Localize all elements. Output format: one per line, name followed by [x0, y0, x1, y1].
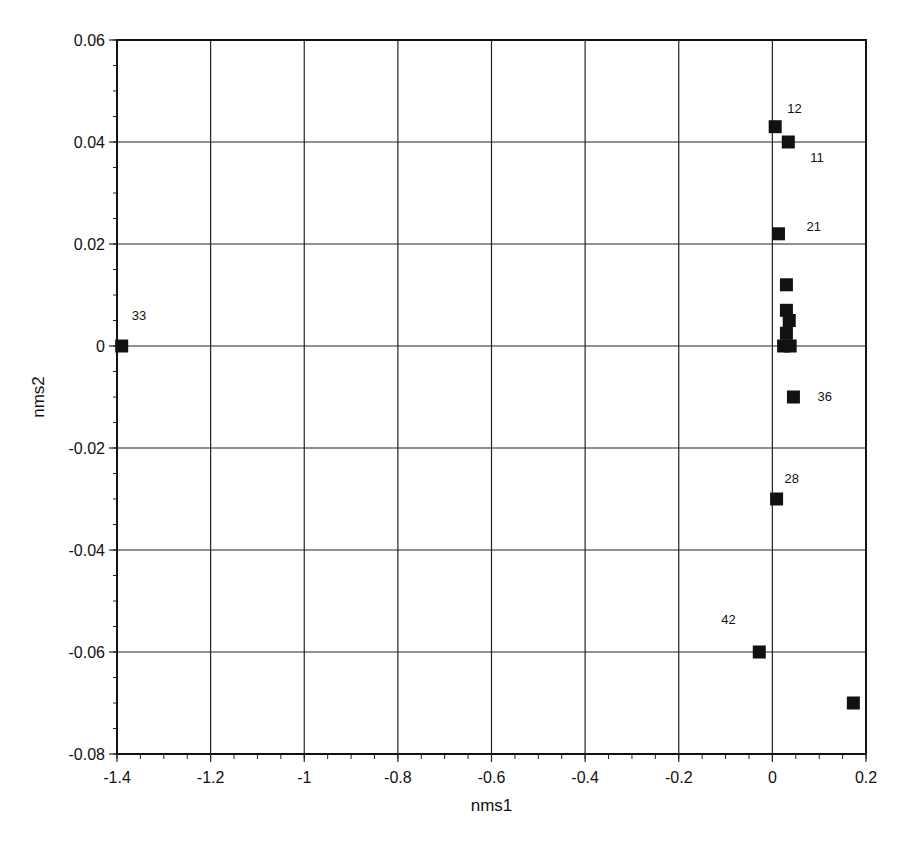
data-point-label: 28: [785, 471, 799, 486]
data-point-marker: [770, 493, 783, 506]
x-tick-label: 0.2: [855, 769, 877, 786]
x-tick-label: -0.2: [665, 769, 693, 786]
y-tick-label: 0.02: [74, 236, 105, 253]
x-tick-label: -1.2: [197, 769, 225, 786]
data-point-marker: [847, 697, 860, 710]
data-point-marker: [784, 340, 797, 353]
x-tick-label: -0.6: [478, 769, 506, 786]
x-tick-label: -1: [297, 769, 311, 786]
data-point-label: 12: [787, 101, 801, 116]
data-point-label: 11: [810, 150, 824, 165]
x-tick-label: -1.4: [103, 769, 131, 786]
data-point-label: 42: [721, 612, 735, 627]
data-points: 33121121362842: [115, 101, 860, 710]
data-point-label: 33: [132, 308, 146, 323]
data-point-marker: [769, 120, 782, 133]
scatter-chart: -1.4-1.2-1-0.8-0.6-0.4-0.200.2 0.060.040…: [0, 0, 914, 841]
data-point-marker: [115, 340, 128, 353]
y-axis-title: nms2: [29, 376, 48, 418]
x-axis-title: nms1: [471, 796, 513, 815]
x-tick-label: 0: [768, 769, 777, 786]
data-point-marker: [772, 227, 785, 240]
y-tick-label: 0.06: [74, 32, 105, 49]
y-tick-label: 0: [96, 338, 105, 355]
x-axis-tick-labels: -1.4-1.2-1-0.8-0.6-0.4-0.200.2: [103, 754, 877, 786]
y-tick-label: 0.04: [74, 134, 105, 151]
y-tick-label: -0.02: [69, 440, 106, 457]
data-point-marker: [780, 327, 793, 340]
y-axis-tick-labels: 0.060.040.020-0.02-0.04-0.06-0.08: [69, 32, 117, 763]
y-tick-label: -0.06: [69, 644, 106, 661]
data-point-label: 36: [817, 389, 831, 404]
x-tick-label: -0.4: [571, 769, 599, 786]
data-point-marker: [780, 278, 793, 291]
x-tick-label: -0.8: [384, 769, 412, 786]
data-point-marker: [782, 136, 795, 149]
data-point-marker: [753, 646, 766, 659]
data-point-label: 21: [806, 219, 820, 234]
data-point-marker: [787, 391, 800, 404]
y-tick-label: -0.04: [69, 542, 106, 559]
y-tick-label: -0.08: [69, 746, 106, 763]
data-point-marker: [783, 314, 796, 327]
